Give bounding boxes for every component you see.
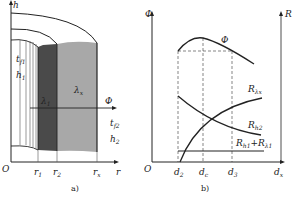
tick-r2: r2 bbox=[53, 167, 61, 178]
tick-d3: d3 bbox=[228, 167, 238, 178]
label-h1: h1 bbox=[16, 70, 26, 81]
r-axis-label: r bbox=[116, 167, 121, 177]
label-r-h2: Rh2 bbox=[247, 120, 263, 131]
dashed-guides bbox=[178, 38, 232, 162]
dx-axis-label: dx bbox=[274, 167, 284, 178]
label-r-h1-lambda1: Rh1+Rλ1 bbox=[235, 138, 272, 149]
phi-axis-label: Φ bbox=[145, 9, 152, 19]
inner-hatch-lines bbox=[20, 40, 36, 149]
label-tf1: tf1 bbox=[16, 54, 26, 66]
label-phi-curve: Φ bbox=[221, 35, 228, 45]
r-axis-label: R bbox=[284, 9, 292, 19]
label-h2: h2 bbox=[110, 134, 120, 145]
panel-a: h r O Φ r1 r2 rx tf1 h1 tf2 h2 λ1 λx a) bbox=[2, 0, 121, 193]
region-lambda-x bbox=[57, 42, 97, 152]
flux-label: Φ bbox=[105, 96, 112, 106]
tick-rx: rx bbox=[93, 167, 101, 178]
tick-dc: dc bbox=[199, 167, 209, 178]
origin-label-b: O bbox=[144, 164, 152, 174]
tick-r1: r1 bbox=[34, 167, 42, 178]
middle-arc bbox=[11, 29, 57, 44]
panel-b: Φ R O dx d2 dc d3 Φ Rλx Rh2 Rh1+Rλ1 b) bbox=[144, 9, 292, 193]
diagram-canvas: h r O Φ r1 r2 rx tf1 h1 tf2 h2 λ1 λx a) bbox=[0, 0, 295, 198]
label-r-lambda-x: Rλx bbox=[247, 84, 263, 95]
label-tf2: tf2 bbox=[110, 118, 120, 130]
tick-d2: d2 bbox=[174, 167, 184, 178]
origin-label: O bbox=[2, 164, 10, 174]
h-axis-label: h bbox=[13, 0, 19, 10]
caption-b: b) bbox=[201, 184, 209, 193]
caption-a: a) bbox=[71, 184, 79, 193]
outer-arc bbox=[11, 13, 97, 43]
